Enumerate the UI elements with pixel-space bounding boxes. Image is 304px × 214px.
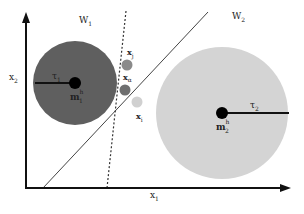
y-axis-arrow-icon <box>22 12 30 23</box>
sample-xalpha-label: xα <box>123 72 132 83</box>
sample-xalpha <box>120 85 131 96</box>
sample-xi-label: xi <box>136 111 143 123</box>
region-w1-label: W1 <box>79 15 92 27</box>
sample-xi <box>132 97 143 108</box>
sample-xj-label: xj <box>127 47 134 60</box>
feature-space-diagram: W1 W2 x2 x1 τ1 mh1 τ2 mh2 xj xα xi <box>0 0 304 214</box>
x-axis-arrow-icon <box>280 184 291 192</box>
region-w2-label: W2 <box>232 11 245 23</box>
x-axis-label: x1 <box>150 190 159 202</box>
y-axis-label: x2 <box>9 72 18 84</box>
sample-xj <box>122 60 133 71</box>
